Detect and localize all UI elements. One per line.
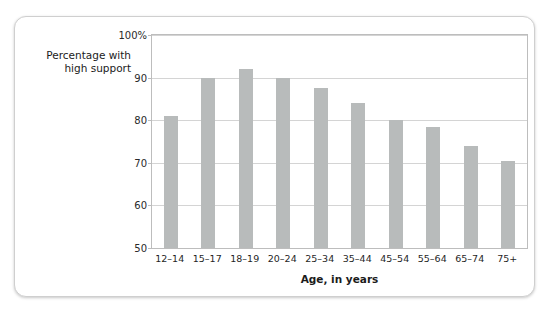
bar[interactable] [464, 146, 478, 248]
figure-card: Percentage with high support 50607080901… [14, 16, 535, 297]
y-axis-tick-label: 80 [134, 115, 147, 126]
y-axis-tick-mark [148, 248, 152, 249]
bar-slot [152, 35, 190, 248]
x-axis-tick-label: 65–74 [455, 253, 484, 264]
x-axis-tick-label: 45–54 [380, 253, 409, 264]
y-axis-title: Percentage with high support [23, 49, 131, 74]
bar-slot [227, 35, 265, 248]
bar[interactable] [501, 161, 515, 248]
bar[interactable] [426, 127, 440, 248]
y-axis-title-line-1: Percentage with [23, 49, 131, 62]
bar-slot [265, 35, 303, 248]
bar-slot [302, 35, 340, 248]
bar-slot [415, 35, 453, 248]
x-axis-tick-label: 75+ [497, 253, 517, 264]
x-axis-tick-label: 35–44 [343, 253, 372, 264]
x-axis-tick-label: 12–14 [155, 253, 184, 264]
bar[interactable] [389, 120, 403, 248]
gridline [152, 248, 527, 249]
x-axis-tick-label: 55–64 [418, 253, 447, 264]
bar[interactable] [351, 103, 365, 248]
bar-slot [490, 35, 528, 248]
y-axis-tick-label: 60 [134, 200, 147, 211]
bars-layer [152, 35, 527, 248]
bar-slot [452, 35, 490, 248]
bar-slot [190, 35, 228, 248]
bar[interactable] [314, 88, 328, 248]
bar[interactable] [164, 116, 178, 248]
y-axis-tick-label: 50 [134, 243, 147, 254]
y-axis-title-line-2: high support [23, 62, 131, 75]
bar[interactable] [201, 78, 215, 248]
x-axis-tick-label: 18–19 [230, 253, 259, 264]
bar[interactable] [239, 69, 253, 248]
y-axis-tick-label: 70 [134, 157, 147, 168]
x-axis-tick-label: 15–17 [193, 253, 222, 264]
bar[interactable] [276, 78, 290, 248]
x-axis-tick-label: 25–34 [305, 253, 334, 264]
bar-slot [377, 35, 415, 248]
x-axis-title: Age, in years [151, 273, 528, 285]
x-axis-tick-labels: 12–1415–1718–1920–2425–3435–4445–5455–64… [151, 253, 528, 267]
x-axis-tick-label: 20–24 [268, 253, 297, 264]
y-axis-tick-label: 100% [118, 30, 147, 41]
plot-area: 5060708090100% [151, 34, 528, 249]
y-axis-tick-label: 90 [134, 72, 147, 83]
bar-slot [340, 35, 378, 248]
